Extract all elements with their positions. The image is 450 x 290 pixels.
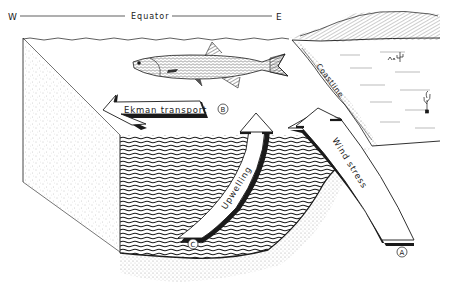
equator-axis: W Equator E [8, 12, 282, 22]
marker-a: A [397, 247, 407, 257]
ekman-transport-label: Ekman transport [124, 105, 207, 115]
marker-b: B [218, 104, 228, 114]
west-label: W [8, 12, 17, 22]
coastal-hills [290, 11, 440, 42]
svg-text:C: C [191, 241, 196, 249]
land-base-line [372, 141, 440, 146]
cactus-icon [388, 52, 403, 62]
marker-c: C [188, 239, 198, 249]
equator-label: Equator [131, 12, 169, 21]
svg-text:B: B [221, 106, 226, 114]
sea-surface [23, 38, 289, 40]
coastline-label: Coastline [314, 62, 345, 100]
ekman-transport-arrow: Ekman transport [103, 94, 208, 130]
east-label: E [276, 12, 282, 22]
diagram-canvas: W Equator E Coastline [0, 0, 450, 290]
ocean-block-side [23, 38, 120, 250]
shrub-icon [424, 91, 430, 113]
svg-text:A: A [400, 249, 405, 257]
fish-icon [133, 42, 288, 88]
upwelling-diagram: W Equator E Coastline [0, 0, 450, 290]
